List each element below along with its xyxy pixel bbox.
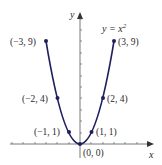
- label-m3: (−3, 9): [10, 37, 36, 48]
- point-2: [101, 96, 105, 100]
- label-2: (2, 4): [107, 94, 128, 105]
- point-m3: [44, 39, 48, 43]
- x-axis-label: x: [148, 149, 154, 160]
- point-m1: [67, 130, 71, 134]
- label-origin: (0, 0): [83, 148, 104, 159]
- point-origin: [78, 142, 82, 146]
- point-m2: [56, 96, 60, 100]
- label-m1: (−1, 1): [34, 127, 60, 138]
- label-m2: (−2, 4): [22, 94, 48, 105]
- y-axis-label: y: [69, 9, 75, 20]
- point-1: [90, 130, 94, 134]
- label-1: (1, 1): [96, 127, 117, 138]
- parabola-chart: y x y = x2 (−3, 9) (3, 9) (−2, 4) (2, 4)…: [0, 0, 162, 165]
- x-axis-arrow-icon: [147, 141, 154, 147]
- function-label: y = x2: [101, 22, 127, 34]
- y-axis: [77, 12, 83, 158]
- point-3: [112, 39, 116, 43]
- label-3: (3, 9): [118, 37, 139, 48]
- y-axis-arrow-icon: [77, 12, 83, 19]
